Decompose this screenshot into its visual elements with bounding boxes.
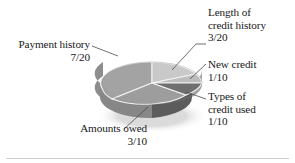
slice-label-types-of-credit-used: Types of credit used 1/10 — [208, 90, 256, 128]
label-value: 3/10 — [80, 135, 147, 148]
label-line-1: Payment history — [18, 38, 90, 51]
label-line-1: Amounts owed — [80, 122, 147, 135]
label-line-1: New credit — [208, 58, 256, 71]
pie-chart: Length of credit history 3/20 New credit… — [0, 0, 295, 163]
slice-label-length-of-credit-history: Length of credit history 3/20 — [208, 6, 266, 44]
label-value: 3/20 — [208, 31, 266, 44]
slice-label-new-credit: New credit 1/10 — [208, 58, 256, 83]
label-line-1: Length of — [208, 6, 266, 19]
label-line-2: credit used — [208, 103, 256, 116]
label-value: 1/10 — [208, 71, 256, 84]
label-value: 1/10 — [208, 115, 256, 128]
slice-label-payment-history: Payment history 7/20 — [18, 38, 90, 63]
bottom-rule — [6, 158, 289, 159]
label-line-2: credit history — [208, 19, 266, 32]
label-line-1: Types of — [208, 90, 256, 103]
leader-line-payment-history — [92, 46, 118, 56]
label-value: 7/20 — [18, 51, 90, 64]
slice-label-amounts-owed: Amounts owed 3/10 — [80, 122, 147, 147]
